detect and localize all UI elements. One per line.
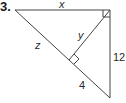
right-triangle-diagram (0, 0, 126, 103)
label-z: z (35, 40, 41, 51)
label-12: 12 (113, 52, 125, 63)
label-x: x (59, 0, 65, 10)
right-angle-mark-foot (74, 54, 79, 64)
label-4: 4 (79, 80, 85, 91)
label-y: y (78, 30, 84, 41)
hypotenuse (15, 10, 110, 98)
